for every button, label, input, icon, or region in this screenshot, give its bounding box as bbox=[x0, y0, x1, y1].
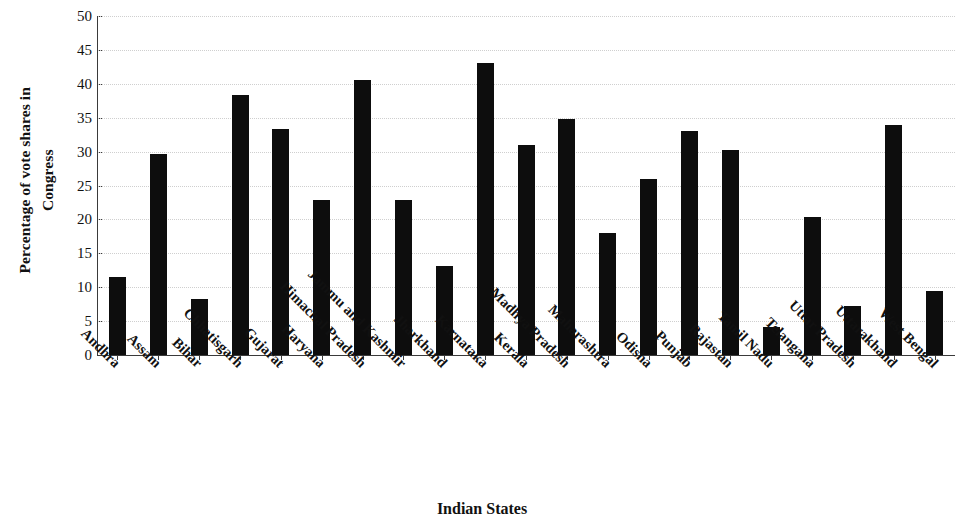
y-axis-tick-label: 50 bbox=[60, 9, 92, 24]
bar bbox=[232, 95, 249, 355]
y-axis-title-line-2: Congress bbox=[36, 87, 59, 273]
y-axis-tick-label: 20 bbox=[60, 212, 92, 227]
bar bbox=[436, 266, 453, 355]
y-axis-tick-label: 25 bbox=[60, 178, 92, 193]
plot-area bbox=[97, 16, 955, 355]
y-axis-tick-label: 40 bbox=[60, 76, 92, 91]
y-axis-title-line-1: Percentage of vote shares in bbox=[13, 87, 36, 273]
gridline bbox=[97, 50, 955, 51]
y-axis-tick-label: 0 bbox=[60, 348, 92, 363]
bar-chart-figure: Percentage of vote shares in Congress 05… bbox=[0, 0, 964, 531]
bar bbox=[150, 154, 167, 355]
y-axis-tick-label-group: 05101520253035404550 bbox=[60, 0, 92, 371]
bar bbox=[640, 179, 657, 355]
x-axis-tick-label-group: AndhraAssamBiharChhatisgarhGujaratHaryan… bbox=[97, 356, 964, 486]
y-axis-tick-label: 35 bbox=[60, 110, 92, 125]
y-axis-tick-label: 30 bbox=[60, 144, 92, 159]
bar bbox=[109, 277, 126, 355]
y-axis-tick-label: 45 bbox=[60, 42, 92, 57]
bar bbox=[272, 129, 289, 355]
gridline bbox=[97, 118, 955, 119]
gridline bbox=[97, 16, 955, 17]
y-axis-tick-label: 10 bbox=[60, 280, 92, 295]
y-axis-tick-label: 15 bbox=[60, 246, 92, 261]
gridline bbox=[97, 84, 955, 85]
y-axis-line bbox=[97, 16, 98, 355]
bar bbox=[477, 63, 494, 355]
x-axis-title: Indian States bbox=[0, 500, 964, 518]
